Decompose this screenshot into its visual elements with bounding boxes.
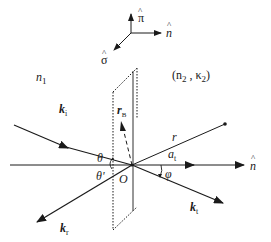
rb-vector [123, 128, 132, 165]
transmitted-ray [132, 165, 223, 203]
medium1-label: n1 [36, 70, 47, 86]
medium2-label: (n2 , κ2) [172, 68, 210, 84]
attenuation-label: at [168, 147, 177, 163]
rb-arrowhead [120, 121, 126, 131]
diagram-canvas: π ^ n ^ σ ^ n1 (n2 , κ2) n ^ ki r at kt … [0, 0, 271, 242]
transmitted-label: kt [190, 200, 199, 216]
theta-label: θ [97, 151, 103, 165]
reflected-ray [37, 165, 132, 222]
theta-arc-tip [111, 157, 114, 160]
incident-label: ki [59, 102, 68, 118]
theta-prime-label: θ' [96, 169, 105, 183]
reflected-label: kr [60, 221, 69, 237]
incident-arrow [14, 125, 68, 148]
phi-label: φ [165, 167, 172, 181]
position-point [223, 122, 227, 126]
origin-label: O [119, 172, 128, 186]
position-vector [132, 124, 225, 165]
position-label: r [172, 130, 177, 144]
rb-label: rB [117, 103, 127, 119]
origin-point [131, 164, 134, 167]
theta-arc [110, 159, 112, 169]
sigma-hat-arrow [114, 33, 131, 50]
